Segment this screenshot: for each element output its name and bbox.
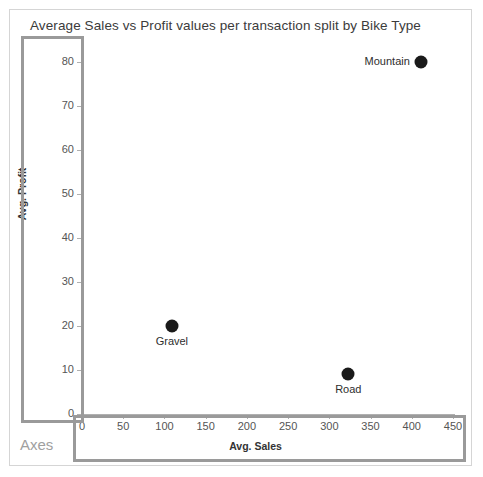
y-axis-highlight-box (21, 36, 84, 423)
data-point[interactable] (342, 368, 355, 381)
chart-screenshot: Average Sales vs Profit values per trans… (0, 0, 483, 477)
chart-title: Average Sales vs Profit values per trans… (30, 18, 421, 33)
data-point[interactable] (414, 56, 427, 69)
data-point-label: Road (335, 383, 361, 395)
data-point[interactable] (165, 320, 178, 333)
axes-annotation-label: Axes (20, 436, 53, 453)
data-point-label: Gravel (156, 335, 188, 347)
data-point-label: Mountain (365, 55, 410, 67)
x-axis-highlight-box (73, 415, 466, 462)
plot-area (82, 36, 454, 415)
